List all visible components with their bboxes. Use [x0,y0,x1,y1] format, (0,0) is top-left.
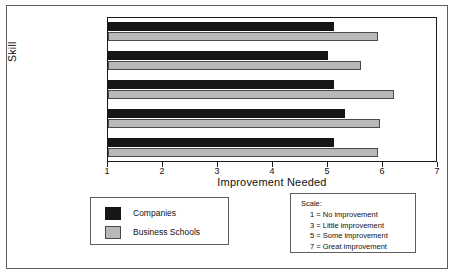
scale-key-line: 5 = Some improvement [310,231,388,240]
bar-companies [108,22,334,31]
bar-group [108,47,436,76]
bar-companies [108,80,334,89]
bar-business-schools [108,148,378,157]
x-axis-title: Improvement Needed [107,176,437,188]
x-axis-tick-label: 1 [97,166,117,176]
bar-group [108,18,436,47]
scale-key-line: 3 = Little improvement [310,221,384,230]
x-axis-tick-label: 4 [262,166,282,176]
scale-key-line: 1 = No improvement [310,210,378,219]
x-axis-tick-label: 2 [152,166,172,176]
x-axis-tick-label: 3 [207,166,227,176]
x-axis-tick-label: 6 [372,166,392,176]
bar-group [108,105,436,134]
scale-key-line: 7 = Great improvement [310,242,387,251]
bar-business-schools [108,119,380,128]
chart-figure: Skill International BusinessTechnicalCro… [0,0,456,279]
y-axis-title: Skill [6,41,18,62]
scale-key-title: Scale: [301,199,322,208]
scale-key-box: Scale: 1 = No improvement3 = Little impr… [290,193,416,253]
legend: CompaniesBusiness Schools [90,197,229,245]
bar-companies [108,51,328,60]
bar-business-schools [108,61,361,70]
legend-label: Business Schools [133,227,200,237]
black-swatch [105,207,121,220]
gray-swatch [105,226,121,239]
legend-label: Companies [133,208,176,218]
x-axis-tick-label: 7 [427,166,447,176]
bar-business-schools [108,90,394,99]
bar-companies [108,138,334,147]
x-axis-tick-label: 5 [317,166,337,176]
plot-area [107,17,437,162]
bar-group [108,134,436,163]
bar-group [108,76,436,105]
bar-business-schools [108,32,378,41]
bar-companies [108,109,345,118]
